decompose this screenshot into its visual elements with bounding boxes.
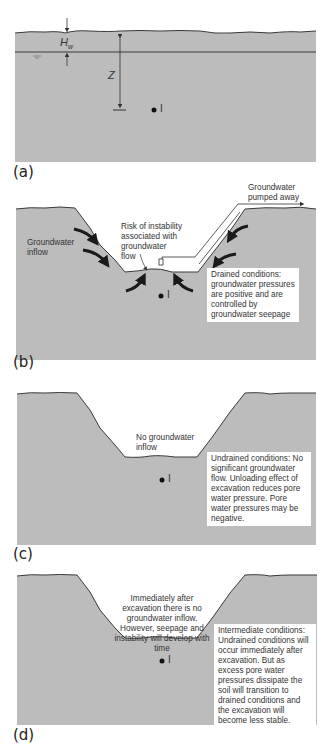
soil-element-dot-b: [159, 294, 164, 299]
panel-label-c: (c): [13, 545, 33, 563]
panel-a-soil: [15, 31, 316, 163]
soil-element-dot-d: [160, 659, 165, 664]
panel-label-a: (a): [13, 163, 34, 181]
element-marker-d: I: [168, 654, 171, 665]
hw-label: Hw: [60, 36, 73, 50]
risk-note: Risk of instability associated with grou…: [121, 222, 183, 262]
pumped-away-note: Groundwater pumped away: [248, 183, 308, 203]
drained-conditions-box: Drained conditions: groundwater pressure…: [207, 268, 299, 322]
element-marker-c: I: [168, 473, 171, 484]
panel-label-b: (b): [13, 353, 34, 371]
z-label: Z: [108, 69, 115, 81]
soil-element-dot-c: [160, 478, 165, 483]
immediate-note: Immediately after excavation there is no…: [112, 594, 212, 654]
element-marker-a: I: [160, 103, 163, 114]
inflow-note: Groundwater inflow: [27, 238, 77, 258]
soil-element-dot-a: [152, 108, 157, 113]
panel-label-d: (d): [13, 726, 34, 744]
element-marker-b: I: [167, 289, 170, 300]
no-inflow-note: No groundwater inflow: [136, 433, 196, 453]
undrained-conditions-box: Undrained conditions: No significant gro…: [207, 452, 311, 526]
intermediate-conditions-box: Intermediate conditions: Undrained condi…: [214, 624, 316, 728]
